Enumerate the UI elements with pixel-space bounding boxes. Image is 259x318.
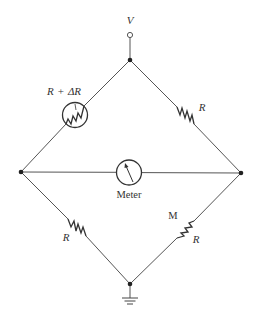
resistor-bottom-left-label: R bbox=[62, 231, 70, 243]
resistor-top-right-branch: R bbox=[130, 60, 241, 173]
wire bbox=[86, 236, 130, 284]
wire bbox=[21, 172, 68, 219]
ground-icon bbox=[122, 284, 138, 304]
wire bbox=[130, 238, 177, 284]
wire bbox=[84, 60, 130, 106]
wire bbox=[194, 124, 241, 173]
resistor-icon bbox=[68, 219, 86, 236]
node-bottom bbox=[128, 282, 133, 287]
resistor-bottom-right-branch: M R bbox=[130, 173, 241, 284]
meter-label: Meter bbox=[116, 189, 142, 200]
resistor-bottom-right-label: R bbox=[192, 233, 200, 245]
meter-branch: Meter bbox=[21, 160, 241, 200]
resistor-icon bbox=[177, 107, 194, 124]
supply-terminal-icon bbox=[127, 32, 132, 37]
resistor-bottom-left-branch: R bbox=[21, 172, 130, 284]
meter-icon bbox=[117, 160, 142, 185]
resistor-bottom-right-marker: M bbox=[168, 210, 178, 221]
supply-voltage-label: V bbox=[127, 14, 135, 26]
node-right bbox=[239, 171, 244, 176]
wire bbox=[130, 60, 177, 107]
node-left bbox=[19, 170, 24, 175]
resistor-top-right-label: R bbox=[198, 101, 206, 113]
thermistor-branch: R+ΔR bbox=[21, 60, 130, 172]
thermistor-label: R+ΔR bbox=[46, 85, 81, 97]
circuit-diagram: V R+ΔR R Meter bbox=[0, 0, 259, 318]
thermistor-icon bbox=[63, 103, 88, 128]
resistor-icon bbox=[177, 221, 194, 238]
node-top bbox=[128, 58, 133, 63]
wire bbox=[21, 124, 66, 172]
wire bbox=[194, 173, 241, 221]
